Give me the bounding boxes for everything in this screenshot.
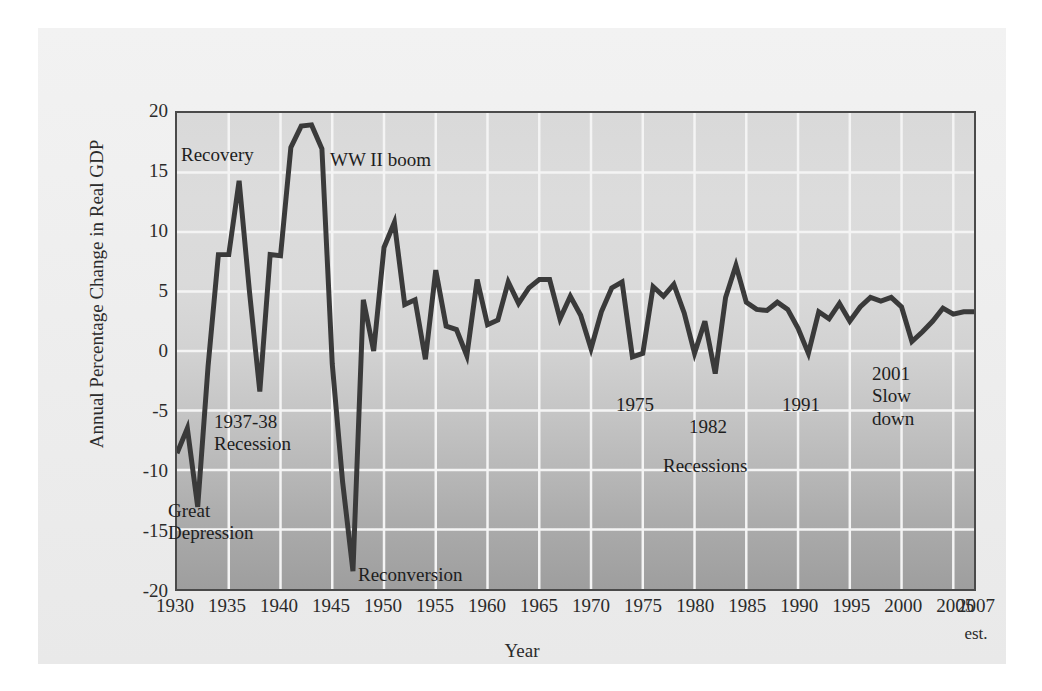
x-axis-tick-label: 1980 — [665, 596, 725, 615]
x-axis-tick-label: 2007 — [946, 596, 1006, 615]
chart-annotation: 1937-38 Recession — [214, 411, 291, 456]
x-axis-title: Year — [38, 640, 1006, 662]
y-axis-tick-labels: 20151050-5-10-15-20 — [116, 111, 168, 591]
chart-annotation: Reconversion — [358, 564, 462, 586]
x-axis-tick-label: 1950 — [353, 596, 413, 615]
figure-page: Annual Percentage Change in Real GDP 201… — [0, 0, 1042, 691]
x-axis-tick-label: 1935 — [197, 596, 257, 615]
y-axis-title: Annual Percentage Change in Real GDP — [86, 59, 108, 529]
x-axis-tick-label: 1945 — [301, 596, 361, 615]
y-axis-tick-label: -15 — [120, 521, 168, 540]
gridlines — [177, 113, 974, 589]
chart-annotation: Recovery — [181, 144, 254, 166]
x-axis-tick-label: 1940 — [249, 596, 309, 615]
x-axis-tick-label: 1955 — [405, 596, 465, 615]
chart-annotation: 1975 — [616, 394, 654, 416]
chart-annotation: Great Depression — [168, 500, 253, 545]
x-axis-tick-label: 1975 — [613, 596, 673, 615]
gdp-line-chart — [177, 113, 974, 589]
x-axis-tick-label: 1985 — [717, 596, 777, 615]
y-axis-tick-label: -5 — [120, 401, 168, 420]
x-axis-tick-label: 2000 — [873, 596, 933, 615]
x-axis-tick-label: 1960 — [457, 596, 517, 615]
x-axis-tick-label: 1970 — [561, 596, 621, 615]
x-axis-tick-label: 1930 — [145, 596, 205, 615]
x-axis-tick-labels: 1930193519401945195019551960196519701975… — [175, 596, 976, 624]
y-axis-tick-label: 15 — [120, 161, 168, 180]
x-axis-tick-label: 1995 — [821, 596, 881, 615]
chart-annotation: 1982 — [689, 416, 727, 438]
chart-annotation: WW II boom — [330, 149, 431, 171]
chart-annotation: 1991 — [782, 394, 820, 416]
figure-plate: Annual Percentage Change in Real GDP 201… — [38, 28, 1006, 664]
y-axis-tick-label: -10 — [120, 461, 168, 480]
plot-area — [175, 111, 976, 591]
gdp-data-line — [177, 125, 974, 571]
x-axis-tick-label: 1965 — [509, 596, 569, 615]
y-axis-tick-label: 5 — [120, 281, 168, 300]
y-axis-tick-label: 20 — [120, 101, 168, 120]
chart-annotation: 2001 Slow down — [872, 363, 914, 430]
chart-annotation: Recessions — [663, 455, 747, 477]
y-axis-tick-label: 10 — [120, 221, 168, 240]
y-axis-tick-label: 0 — [120, 341, 168, 360]
x-axis-tick-label: 1990 — [769, 596, 829, 615]
